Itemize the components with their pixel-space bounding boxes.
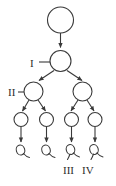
level-label-two: II [8,87,15,98]
node-level-three-4 [88,113,102,127]
node-level-three-3 [65,113,79,127]
edge-level-two-left-to-small-one [23,100,30,111]
level-label-one: I [30,58,34,69]
node-level-two-right [73,82,92,101]
node-root [48,7,74,33]
edge-level-one-to-level-two-right [67,71,82,81]
leaf-glyph-1 [15,144,30,158]
diagram-canvas [0,0,116,186]
tree-diagram: I II III IV [0,0,116,186]
node-level-three-1 [14,113,28,127]
node-level-three-2 [40,113,54,127]
leaf-label-four: IV [82,165,94,176]
leaf-glyph-4 [88,143,103,159]
edge-level-two-right-to-small-three [71,100,78,111]
edge-level-two-left-to-small-two [38,100,46,111]
leaf-glyph-2 [40,144,55,158]
leaf-label-three: III [63,165,74,176]
node-level-two-left [24,82,43,101]
edge-level-one-to-level-two-left [39,71,54,81]
node-level-one [50,51,71,72]
leaf-glyph-3 [65,143,80,159]
edge-level-two-right-to-small-four [87,100,94,111]
